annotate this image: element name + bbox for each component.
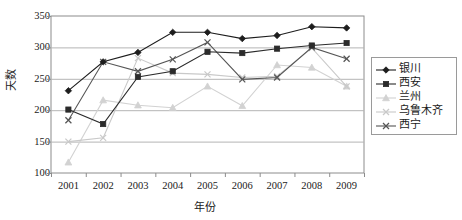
- x-tick-label: 2003: [120, 180, 156, 191]
- x-tick-label: 2002: [85, 180, 121, 191]
- data-point: [274, 46, 279, 51]
- data-point: [309, 43, 314, 48]
- legend-item-乌鲁木齐[interactable]: 乌鲁木齐: [375, 103, 454, 117]
- legend-marker-icon: [375, 104, 397, 116]
- plot-border: [51, 16, 364, 173]
- data-point: [383, 81, 388, 86]
- data-point: [135, 74, 140, 79]
- legend-label: 西安: [397, 76, 421, 88]
- x-tick-label: 2007: [259, 180, 295, 191]
- x-tick-label: 2004: [155, 180, 191, 191]
- legend-item-银川[interactable]: 银川: [375, 61, 454, 75]
- legend-item-西宁[interactable]: 西宁: [375, 117, 454, 131]
- data-point: [205, 49, 210, 54]
- data-point: [240, 50, 245, 55]
- x-tick-label: 2001: [50, 180, 86, 191]
- line-chart: 天数 100150200250300350 200120022003200420…: [0, 0, 462, 220]
- x-tick-label: 2008: [294, 180, 330, 191]
- legend-item-兰州[interactable]: 兰州: [375, 89, 454, 103]
- legend-label: 乌鲁木齐: [397, 104, 443, 116]
- data-point: [344, 40, 349, 45]
- x-tick-label: 2006: [224, 180, 260, 191]
- legend: 银川西安兰州乌鲁木齐西宁: [371, 57, 457, 135]
- legend-item-西安[interactable]: 西安: [375, 75, 454, 89]
- legend-marker-icon: [375, 76, 397, 88]
- legend-label: 西宁: [397, 118, 421, 130]
- legend-marker-icon: [375, 90, 397, 102]
- data-point: [170, 69, 175, 74]
- legend-marker-icon: [375, 62, 397, 74]
- data-point: [383, 67, 389, 73]
- data-point: [101, 121, 106, 126]
- legend-label: 兰州: [397, 90, 421, 102]
- legend-label: 银川: [397, 62, 421, 74]
- x-tick-label: 2005: [190, 180, 226, 191]
- legend-marker-icon: [375, 118, 397, 130]
- x-axis-title: 年份: [150, 198, 260, 214]
- data-point: [66, 107, 71, 112]
- x-tick-label: 2009: [329, 180, 365, 191]
